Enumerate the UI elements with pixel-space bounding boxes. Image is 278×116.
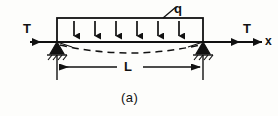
support-left-pin	[47, 42, 72, 60]
support-right-pin	[188, 42, 213, 60]
span-length-label: L	[124, 60, 132, 73]
beam-diagram-svg	[0, 0, 278, 116]
beam-outline	[57, 18, 203, 42]
deflection-curve	[60, 45, 200, 53]
beam-diagram-figure: q T T x L (a)	[0, 0, 278, 116]
tension-label-right: T	[243, 22, 251, 35]
figure-caption: (a)	[121, 91, 138, 104]
distributed-load-label: q	[174, 2, 182, 15]
distributed-load-arrows	[74, 21, 179, 36]
tension-label-left: T	[23, 22, 31, 35]
x-axis-label: x	[265, 35, 272, 47]
